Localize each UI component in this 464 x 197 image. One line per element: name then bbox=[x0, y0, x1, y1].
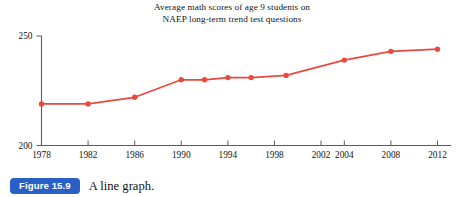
data-point-marker bbox=[179, 77, 184, 82]
data-point-marker bbox=[248, 75, 253, 80]
data-point-marker bbox=[202, 77, 207, 82]
data-point-marker bbox=[132, 95, 137, 100]
x-tick-label: 1982 bbox=[79, 150, 98, 160]
series-line-path bbox=[42, 49, 438, 104]
y-axis-ticks: 200250 bbox=[19, 31, 42, 150]
data-point-marker bbox=[435, 46, 440, 51]
y-tick-label: 250 bbox=[19, 31, 33, 41]
x-tick-label: 2004 bbox=[335, 150, 354, 160]
x-tick-label: 2002 bbox=[312, 150, 331, 160]
figure-caption-text: A line graph. bbox=[89, 179, 154, 194]
x-tick-label: 1990 bbox=[172, 150, 191, 160]
data-point-marker bbox=[388, 49, 393, 54]
data-point-marker bbox=[85, 101, 90, 106]
figure-caption: Figure 15.9 A line graph. bbox=[10, 178, 154, 194]
x-tick-label: 1986 bbox=[125, 150, 144, 160]
data-series-age9-math-scores bbox=[39, 46, 440, 106]
data-point-marker bbox=[342, 57, 347, 62]
data-point-marker bbox=[39, 101, 44, 106]
y-tick-label: 200 bbox=[19, 141, 33, 151]
figure-container: Average math scores of age 9 students on… bbox=[0, 0, 464, 197]
x-tick-label: 2008 bbox=[382, 150, 401, 160]
figure-number-badge: Figure 15.9 bbox=[10, 178, 80, 194]
data-point-marker bbox=[225, 75, 230, 80]
line-chart-plot: 200250 197819821986199019941998200220042… bbox=[0, 0, 464, 170]
x-tick-label: 1998 bbox=[265, 150, 284, 160]
x-tick-label: 1978 bbox=[32, 150, 51, 160]
x-tick-label: 1994 bbox=[219, 150, 238, 160]
series-markers bbox=[39, 46, 440, 106]
data-point-marker bbox=[283, 73, 288, 78]
x-tick-label: 2012 bbox=[428, 150, 447, 160]
x-axis-ticks: 1978198219861990199419982002200420082012 bbox=[32, 141, 447, 160]
